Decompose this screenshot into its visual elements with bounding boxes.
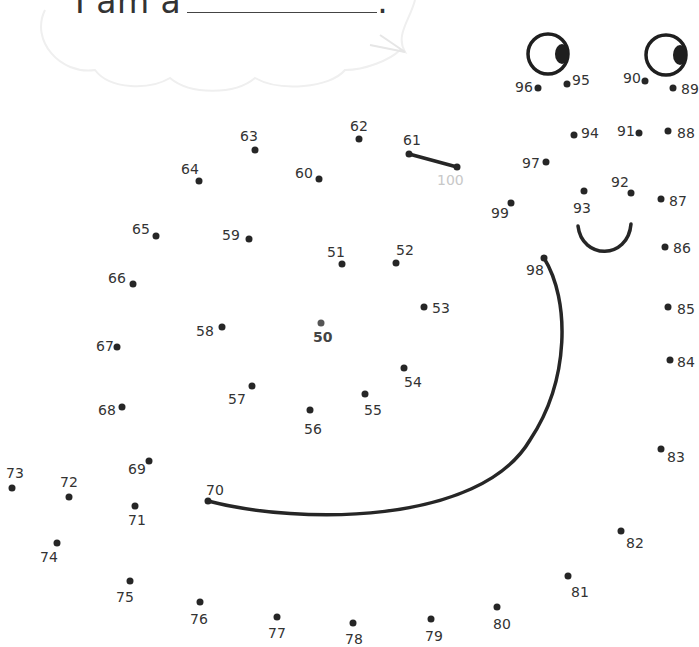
dot-label-98: 98 <box>526 263 544 277</box>
worksheet-prompt: I am a. <box>75 0 388 21</box>
dot-73[interactable] <box>9 485 16 492</box>
prompt-text: I am a <box>75 0 181 21</box>
dot-93[interactable] <box>581 188 588 195</box>
dot-label-67: 67 <box>96 339 114 353</box>
dot-label-83: 83 <box>667 450 685 464</box>
dot-50[interactable] <box>318 320 325 327</box>
dot-label-55: 55 <box>364 403 382 417</box>
dot-59[interactable] <box>246 236 253 243</box>
dot-75[interactable] <box>127 578 134 585</box>
dot-67[interactable] <box>114 344 121 351</box>
dot-90[interactable] <box>642 78 649 85</box>
dot-72[interactable] <box>66 494 73 501</box>
dot-65[interactable] <box>153 233 160 240</box>
dot-96[interactable] <box>535 85 542 92</box>
dot-84[interactable] <box>667 357 674 364</box>
dot-label-100: 100 <box>437 173 464 187</box>
dot-label-86: 86 <box>673 241 691 255</box>
dot-label-59: 59 <box>222 228 240 242</box>
dot-label-76: 76 <box>190 612 208 626</box>
dot-62[interactable] <box>356 136 363 143</box>
dot-53[interactable] <box>421 304 428 311</box>
dot-82[interactable] <box>618 528 625 535</box>
dot-51[interactable] <box>339 261 346 268</box>
dot-54[interactable] <box>401 365 408 372</box>
dot-label-60: 60 <box>295 166 313 180</box>
dot-label-64: 64 <box>181 162 199 176</box>
dot-56[interactable] <box>307 407 314 414</box>
dot-81[interactable] <box>565 573 572 580</box>
dot-label-84: 84 <box>677 355 695 369</box>
dot-77[interactable] <box>274 614 281 621</box>
dot-74[interactable] <box>54 540 61 547</box>
dot-63[interactable] <box>252 147 259 154</box>
dot-55[interactable] <box>362 391 369 398</box>
worksheet-canvas <box>0 0 699 647</box>
dot-label-70: 70 <box>206 483 224 497</box>
dot-label-52: 52 <box>396 243 414 257</box>
dot-89[interactable] <box>670 85 677 92</box>
dot-label-97: 97 <box>522 156 540 170</box>
dot-label-56: 56 <box>304 422 322 436</box>
dot-label-92: 92 <box>611 175 629 189</box>
dot-label-73: 73 <box>6 466 24 480</box>
dot-label-94: 94 <box>581 126 599 140</box>
dot-71[interactable] <box>132 503 139 510</box>
dot-label-53: 53 <box>432 301 450 315</box>
dot-94[interactable] <box>571 132 578 139</box>
dot-label-96: 96 <box>515 80 533 94</box>
dot-70[interactable] <box>205 498 212 505</box>
dot-86[interactable] <box>662 244 669 251</box>
dot-label-78: 78 <box>345 632 363 646</box>
dot-87[interactable] <box>658 196 665 203</box>
dot-69[interactable] <box>146 458 153 465</box>
dot-label-74: 74 <box>40 550 58 564</box>
dot-label-57: 57 <box>228 392 246 406</box>
dot-68[interactable] <box>119 404 126 411</box>
dot-80[interactable] <box>494 604 501 611</box>
dot-label-88: 88 <box>677 126 695 140</box>
dot-58[interactable] <box>219 324 226 331</box>
dot-label-69: 69 <box>128 462 146 476</box>
dot-78[interactable] <box>350 620 357 627</box>
dot-label-58: 58 <box>196 324 214 338</box>
dot-label-61: 61 <box>403 133 421 147</box>
curve-70-98 <box>208 258 562 515</box>
dot-79[interactable] <box>428 616 435 623</box>
dot-label-63: 63 <box>240 129 258 143</box>
dot-label-79: 79 <box>425 629 443 643</box>
dot-label-65: 65 <box>132 222 150 236</box>
dot-88[interactable] <box>665 128 672 135</box>
dot-95[interactable] <box>564 81 571 88</box>
dot-64[interactable] <box>196 178 203 185</box>
dot-label-85: 85 <box>677 302 695 316</box>
dot-98[interactable] <box>541 255 548 262</box>
dot-52[interactable] <box>393 260 400 267</box>
dot-57[interactable] <box>249 383 256 390</box>
dot-label-62: 62 <box>350 119 368 133</box>
dot-label-72: 72 <box>60 475 78 489</box>
dot-label-51: 51 <box>327 245 345 259</box>
dot-60[interactable] <box>316 176 323 183</box>
dot-label-80: 80 <box>493 617 511 631</box>
dot-92[interactable] <box>628 190 635 197</box>
dot-76[interactable] <box>197 599 204 606</box>
dot-label-77: 77 <box>268 626 286 640</box>
dot-label-91: 91 <box>617 124 635 138</box>
dot-97[interactable] <box>543 159 550 166</box>
dot-label-66: 66 <box>108 271 126 285</box>
dot-100[interactable] <box>454 164 461 171</box>
dot-label-71: 71 <box>128 513 146 527</box>
dot-label-87: 87 <box>669 194 687 208</box>
dot-label-68: 68 <box>98 403 116 417</box>
dot-85[interactable] <box>665 304 672 311</box>
dot-61[interactable] <box>406 151 413 158</box>
dot-label-90: 90 <box>623 71 641 85</box>
dot-83[interactable] <box>658 446 665 453</box>
dot-66[interactable] <box>130 281 137 288</box>
dot-91[interactable] <box>636 130 643 137</box>
right-eye-icon <box>646 35 687 75</box>
dot-label-89: 89 <box>681 82 699 96</box>
left-eye-icon <box>528 34 569 74</box>
answer-blank[interactable] <box>187 0 377 13</box>
